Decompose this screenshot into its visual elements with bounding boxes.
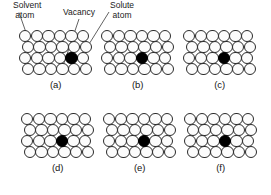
lattice <box>21 113 94 158</box>
solvent-atom <box>58 146 70 158</box>
panel-caption: (e) <box>103 162 176 173</box>
solvent-atom <box>33 63 45 75</box>
solvent-atom <box>70 146 82 158</box>
panel-caption: (b) <box>101 79 174 90</box>
panel-caption: (d) <box>21 162 94 173</box>
panel-caption: (c) <box>183 79 256 90</box>
panel-f: (f) <box>184 113 257 158</box>
panel-caption: (a) <box>19 79 92 90</box>
panel-a: (a) <box>19 30 92 75</box>
annotation-label-solvent-atom: Solvent atom <box>13 1 41 20</box>
lattice <box>184 113 257 158</box>
solvent-atom <box>197 63 209 75</box>
solvent-atom <box>35 146 47 158</box>
solvent-atom <box>187 146 199 158</box>
figure-root: Solvent atom Vacancy Solute atom (a)(b)(… <box>0 0 271 195</box>
solvent-atom <box>129 146 141 158</box>
annotation-label-vacancy: Vacancy <box>63 8 95 18</box>
solvent-atom <box>220 63 232 75</box>
solvent-atom <box>24 146 36 158</box>
lattice <box>103 113 176 158</box>
solvent-atom <box>186 63 198 75</box>
solvent-atom <box>221 146 233 158</box>
solvent-atom <box>233 146 245 158</box>
panel-b: (b) <box>101 30 174 75</box>
lattice <box>19 30 92 75</box>
solvent-atom <box>198 146 210 158</box>
panel-d: (d) <box>21 113 94 158</box>
solvent-atom <box>47 146 59 158</box>
solvent-atom <box>80 63 92 75</box>
panel-caption: (f) <box>184 162 257 173</box>
solvent-atom <box>106 146 118 158</box>
solvent-atom <box>117 146 129 158</box>
annotation-label-solute-atom: Solute atom <box>110 1 134 20</box>
solvent-atom <box>232 63 244 75</box>
solvent-atom <box>68 63 80 75</box>
solvent-atom <box>150 63 162 75</box>
solvent-atom <box>164 146 176 158</box>
solvent-atom <box>140 146 152 158</box>
lattice <box>101 30 174 75</box>
solvent-atom <box>152 146 164 158</box>
solvent-atom <box>82 146 94 158</box>
solvent-atom <box>245 146 257 158</box>
lattice <box>183 30 256 75</box>
panel-e: (e) <box>103 113 176 158</box>
solvent-atom <box>210 146 222 158</box>
solvent-atom <box>162 63 174 75</box>
solvent-atom <box>209 63 221 75</box>
solvent-atom <box>138 63 150 75</box>
solvent-atom <box>56 63 68 75</box>
solvent-atom <box>45 63 57 75</box>
solvent-atom <box>127 63 139 75</box>
solvent-atom <box>22 63 34 75</box>
solvent-atom <box>104 63 116 75</box>
solvent-atom <box>115 63 127 75</box>
panel-c: (c) <box>183 30 256 75</box>
solvent-atom <box>244 63 256 75</box>
solute-atom <box>65 52 77 64</box>
